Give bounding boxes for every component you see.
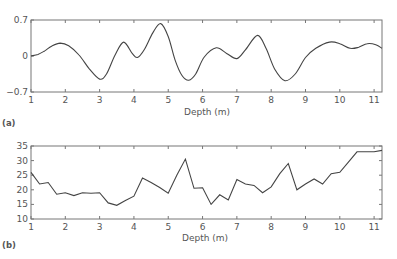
x-tick-label: 2 bbox=[62, 222, 68, 232]
x-tick-label: 1 bbox=[28, 95, 34, 105]
y-tick-label: 15 bbox=[17, 199, 28, 209]
panel-a-chart: 1234567891011−0.700.7 bbox=[6, 15, 382, 105]
y-tick-label: 35 bbox=[17, 141, 28, 151]
chart-figure: 1234567891011−0.700.7 Depth (m) (a) 1234… bbox=[0, 0, 397, 259]
y-tick-label: 30 bbox=[17, 156, 29, 166]
panel-a-label: (a) bbox=[2, 118, 16, 128]
x-tick-label: 4 bbox=[131, 95, 137, 105]
x-tick-label: 5 bbox=[165, 95, 171, 105]
x-tick-label: 8 bbox=[268, 222, 274, 232]
x-tick-label: 11 bbox=[368, 95, 379, 105]
panel-a-xlabel: Depth (m) bbox=[184, 107, 230, 117]
x-tick-label: 7 bbox=[234, 95, 240, 105]
y-tick-label: 25 bbox=[17, 170, 28, 180]
panel-b-xlabel: Depth (m) bbox=[182, 233, 228, 243]
y-tick-label: 10 bbox=[17, 214, 29, 224]
x-tick-label: 5 bbox=[165, 222, 171, 232]
plot-frame bbox=[31, 146, 382, 219]
x-tick-label: 3 bbox=[97, 222, 103, 232]
x-tick-label: 2 bbox=[62, 95, 68, 105]
x-tick-label: 8 bbox=[268, 95, 274, 105]
x-tick-label: 11 bbox=[368, 222, 379, 232]
y-tick-label: −0.7 bbox=[6, 87, 28, 97]
y-tick-label: 20 bbox=[17, 185, 29, 195]
y-tick-label: 0 bbox=[22, 51, 28, 61]
panel-b-label: (b) bbox=[2, 240, 16, 250]
panel-b-chart: 1234567891011101520253035 bbox=[17, 141, 382, 232]
x-tick-label: 6 bbox=[200, 95, 206, 105]
x-tick-label: 4 bbox=[131, 222, 137, 232]
x-tick-label: 9 bbox=[303, 222, 309, 232]
x-tick-label: 1 bbox=[28, 222, 34, 232]
data-line bbox=[31, 150, 382, 205]
x-tick-label: 7 bbox=[234, 222, 240, 232]
y-tick-label: 0.7 bbox=[14, 15, 28, 25]
x-tick-label: 3 bbox=[97, 95, 103, 105]
x-tick-label: 10 bbox=[334, 222, 346, 232]
data-line bbox=[31, 24, 382, 81]
x-tick-label: 6 bbox=[200, 222, 206, 232]
x-tick-label: 9 bbox=[303, 95, 309, 105]
plot-frame bbox=[31, 20, 382, 92]
x-tick-label: 10 bbox=[334, 95, 346, 105]
